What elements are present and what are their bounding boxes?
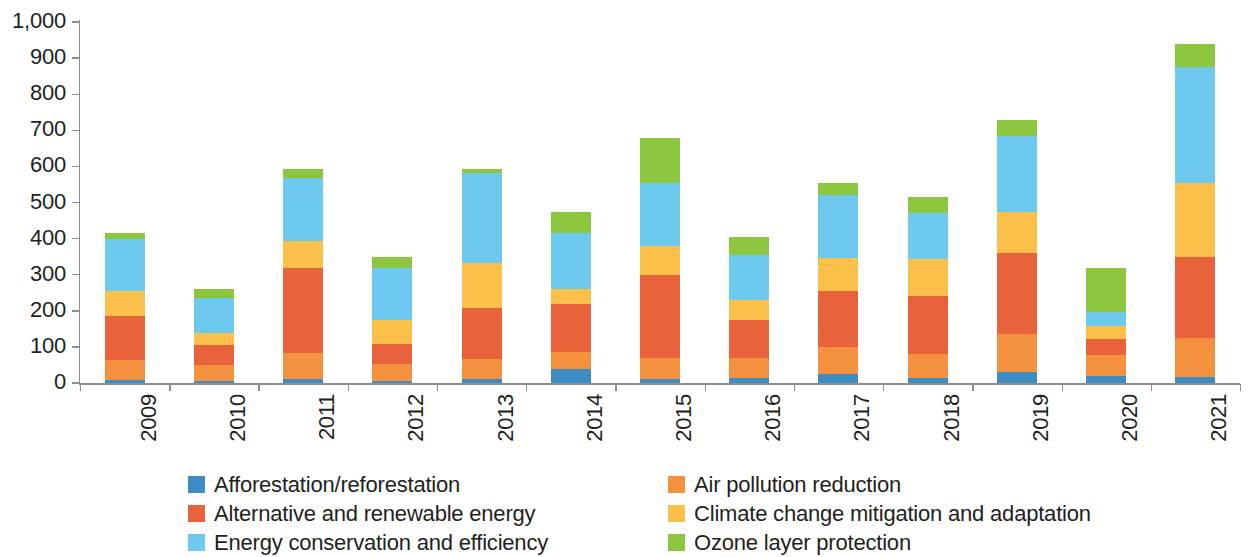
legend-item[interactable]: Energy conservation and efficiency [188,528,668,557]
stacked-bar[interactable] [640,138,680,383]
bar-segment[interactable] [372,257,412,268]
stacked-bar[interactable] [551,212,591,383]
bar-segment[interactable] [283,268,323,353]
bar-segment[interactable] [372,344,412,364]
bar-segment[interactable] [997,120,1037,136]
stacked-bar[interactable] [372,257,412,383]
bar-segment[interactable] [551,289,591,303]
bar-segment[interactable] [818,183,858,196]
legend-item[interactable]: Climate change mitigation and adaptation [668,499,1148,528]
bar-group [729,22,769,383]
bar-segment[interactable] [1175,67,1215,183]
bar-segment[interactable] [105,239,145,291]
bar-segment[interactable] [551,212,591,234]
bar-segment[interactable] [194,345,234,365]
bar-segment[interactable] [997,212,1037,254]
bar-segment[interactable] [194,365,234,381]
bar-segment[interactable] [1086,355,1126,376]
bar-segment[interactable] [105,291,145,316]
bar-segment[interactable] [1175,183,1215,257]
bar-segment[interactable] [105,316,145,359]
y-axis-tick-mark [72,274,80,275]
bar-segment[interactable] [729,378,769,383]
bar-segment[interactable] [1086,312,1126,326]
bar-segment[interactable] [462,173,502,263]
stacked-bar[interactable] [729,237,769,383]
bar-segment[interactable] [818,195,858,258]
bar-segment[interactable] [372,268,412,320]
stacked-bar[interactable] [908,197,948,383]
bar-segment[interactable] [105,360,145,381]
legend-item[interactable]: Afforestation/reforestation [188,470,668,499]
bar-segment[interactable] [997,136,1037,212]
bar-segment[interactable] [551,304,591,353]
bar-segment[interactable] [729,358,769,378]
bar-segment[interactable] [997,372,1037,383]
bar-segment[interactable] [908,354,948,378]
bar-segment[interactable] [372,364,412,381]
bar-segment[interactable] [1086,376,1126,383]
bar-segment[interactable] [283,241,323,268]
bar-segment[interactable] [1086,326,1126,339]
bar-segment[interactable] [640,275,680,358]
bar-segment[interactable] [1175,338,1215,377]
bar-segment[interactable] [640,358,680,380]
legend-item[interactable]: Ozone layer protection [668,528,1148,557]
stacked-bar[interactable] [462,169,502,383]
bar-segment[interactable] [462,379,502,383]
bar-segment[interactable] [908,259,948,297]
bar-segment[interactable] [105,380,145,383]
bar-segment[interactable] [194,381,234,383]
bar-segment[interactable] [283,178,323,241]
bar-segment[interactable] [818,347,858,374]
legend-item-label: Ozone layer protection [694,530,911,556]
bar-segment[interactable] [551,233,591,289]
bar-segment[interactable] [1175,257,1215,338]
bar-segment[interactable] [640,183,680,246]
bar-segment[interactable] [551,352,591,368]
bar-segment[interactable] [729,300,769,320]
bar-segment[interactable] [551,369,591,383]
bar-segment[interactable] [640,138,680,183]
stacked-bar[interactable] [283,169,323,383]
bar-segment[interactable] [818,258,858,290]
bar-segment[interactable] [908,296,948,354]
bar-segment[interactable] [729,320,769,358]
bar-segment[interactable] [283,169,323,178]
y-axis-tick-label: 0 [0,369,66,395]
bar-segment[interactable] [729,255,769,300]
bar-segment[interactable] [640,246,680,275]
bar-segment[interactable] [908,213,948,258]
bar-segment[interactable] [372,320,412,343]
bar-segment[interactable] [997,253,1037,334]
stacked-bar[interactable] [1086,268,1126,383]
bar-segment[interactable] [997,334,1037,372]
bar-segment[interactable] [1175,44,1215,67]
bar-segment[interactable] [1086,339,1126,355]
bar-segment[interactable] [194,289,234,298]
bar-segment[interactable] [640,379,680,383]
bar-segment[interactable] [1086,268,1126,311]
bar-segment[interactable] [1175,377,1215,383]
bar-segment[interactable] [194,298,234,332]
bar-segment[interactable] [462,359,502,380]
legend-item[interactable]: Air pollution reduction [668,470,1148,499]
legend-item[interactable]: Alternative and renewable energy [188,499,668,528]
bar-segment[interactable] [908,378,948,383]
y-axis-tick-label: 500 [0,189,66,215]
bar-segment[interactable] [818,374,858,383]
stacked-bar[interactable] [1175,44,1215,383]
stacked-bar[interactable] [997,120,1037,383]
bar-segment[interactable] [283,353,323,379]
stacked-bar[interactable] [818,183,858,383]
bar-segment[interactable] [372,381,412,383]
stacked-bar[interactable] [105,233,145,383]
stacked-bar[interactable] [194,289,234,383]
bar-segment[interactable] [908,197,948,213]
bar-segment[interactable] [462,263,502,308]
bar-segment[interactable] [818,291,858,347]
bar-segment[interactable] [462,308,502,359]
bar-segment[interactable] [729,237,769,255]
bar-segment[interactable] [194,333,234,346]
bar-segment[interactable] [283,379,323,383]
